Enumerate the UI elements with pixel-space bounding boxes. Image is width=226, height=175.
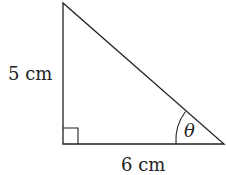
angle-label: θ: [184, 120, 195, 141]
triangle-diagram: 5 cm 6 cm θ: [0, 0, 226, 175]
horizontal-side-label: 6 cm: [121, 154, 165, 175]
vertical-side-label: 5 cm: [8, 63, 52, 84]
right-angle-marker: [63, 128, 78, 144]
right-triangle: [63, 3, 224, 144]
